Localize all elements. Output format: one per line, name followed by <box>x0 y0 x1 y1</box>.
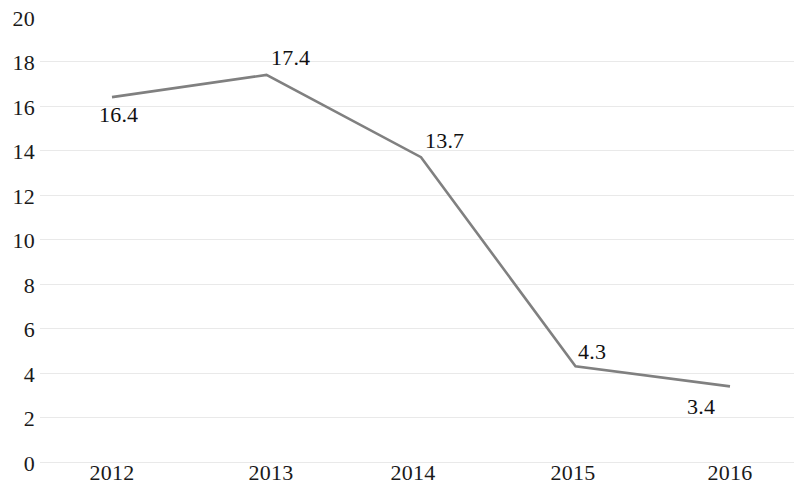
x-tick-label: 2015 <box>513 462 633 484</box>
x-tick-label: 2016 <box>670 462 790 484</box>
chart-plot-area <box>0 0 794 491</box>
gridlines-group <box>40 62 794 463</box>
x-tick-label: 2012 <box>52 462 172 484</box>
x-tick-label: 2014 <box>353 462 473 484</box>
series-group <box>112 75 730 387</box>
data-label-2014: 13.7 <box>425 130 464 152</box>
y-tick-label: 2 <box>0 408 35 430</box>
y-tick-label: 0 <box>0 453 35 475</box>
data-label-2013: 17.4 <box>271 47 310 69</box>
x-tick-label: 2013 <box>211 462 331 484</box>
y-tick-label: 6 <box>0 319 35 341</box>
data-label-2015: 4.3 <box>578 341 606 363</box>
line-chart: 20 18 16 14 12 10 8 6 4 2 0 2012 2013 20… <box>0 0 794 491</box>
y-tick-label: 10 <box>0 230 35 252</box>
y-tick-label: 4 <box>0 364 35 386</box>
series-line-path <box>112 75 730 387</box>
y-tick-label: 20 <box>0 8 35 30</box>
data-label-2012: 16.4 <box>99 104 138 126</box>
data-label-2016: 3.4 <box>687 396 715 418</box>
y-tick-label: 8 <box>0 275 35 297</box>
y-tick-label: 18 <box>0 52 35 74</box>
y-tick-label: 16 <box>0 97 35 119</box>
y-tick-label: 12 <box>0 186 35 208</box>
y-tick-label: 14 <box>0 141 35 163</box>
